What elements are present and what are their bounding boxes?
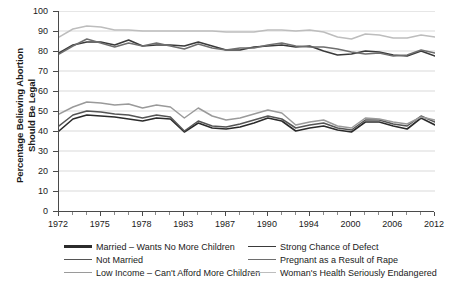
x-tick-mark	[239, 212, 240, 215]
x-tick-label: 1975	[80, 219, 120, 229]
x-tick-mark	[392, 212, 393, 216]
x-tick-mark	[364, 212, 365, 215]
legend-label: Married – Wants No More Children	[96, 242, 235, 252]
x-tick-mark	[309, 212, 310, 216]
legend-line-swatch	[248, 272, 276, 273]
x-tick-label: 2006	[372, 219, 412, 229]
y-tick-label: 60	[22, 87, 48, 96]
series-line-4	[59, 39, 435, 56]
y-tick-label: 30	[22, 147, 48, 156]
y-tick-label: 100	[22, 7, 48, 16]
x-tick-mark	[253, 212, 254, 215]
legend-line-swatch	[64, 259, 92, 261]
series-lines	[59, 11, 435, 211]
y-tick-label: 20	[22, 167, 48, 176]
x-tick-mark	[155, 212, 156, 215]
x-tick-mark	[211, 212, 212, 215]
legend-label: Pregnant as a Result of Rape	[280, 255, 398, 265]
y-tick-label: 80	[22, 47, 48, 56]
legend-item[interactable]: Married – Wants No More Children	[64, 240, 260, 253]
series-line-1	[59, 111, 435, 131]
legend-line-swatch	[248, 246, 276, 248]
legend-line-swatch	[64, 245, 92, 247]
x-tick-mark	[197, 212, 198, 215]
x-tick-mark	[58, 212, 59, 216]
y-tick-label: 50	[22, 107, 48, 116]
y-axis-ticks: 0102030405060708090100	[0, 0, 58, 211]
x-axis-tick-labels: 1972197519781983198719901994200020062012	[0, 219, 440, 233]
x-tick-label: 1994	[289, 219, 329, 229]
y-tick-label: 70	[22, 67, 48, 76]
legend-label: Strong Chance of Defect	[280, 242, 379, 252]
x-tick-label: 2000	[330, 219, 370, 229]
plot-area	[58, 11, 435, 211]
x-tick-mark	[128, 212, 129, 215]
x-tick-mark	[86, 212, 87, 215]
legend-line-swatch	[64, 272, 92, 273]
x-tick-label: 1983	[163, 219, 203, 229]
x-tick-mark	[406, 212, 407, 215]
y-tick-label: 0	[22, 207, 48, 216]
legend-label: Woman's Health Seriously Endangered	[280, 268, 437, 278]
x-tick-mark	[323, 212, 324, 215]
legend-item[interactable]: Pregnant as a Result of Rape	[248, 253, 437, 266]
x-tick-mark	[267, 212, 268, 216]
series-line-2	[59, 102, 435, 128]
x-tick-label: 1990	[247, 219, 287, 229]
x-tick-mark	[434, 212, 435, 216]
x-tick-mark	[281, 212, 282, 215]
x-tick-mark	[72, 212, 73, 215]
x-tick-mark	[183, 212, 184, 216]
y-tick-label: 90	[22, 27, 48, 36]
y-tick-label: 40	[22, 127, 48, 136]
x-tick-label: 1978	[122, 219, 162, 229]
x-tick-mark	[169, 212, 170, 215]
x-tick-mark	[378, 212, 379, 215]
y-tick-label: 10	[22, 187, 48, 196]
legend-item[interactable]: Strong Chance of Defect	[248, 240, 437, 253]
legend-column-right: Strong Chance of DefectPregnant as a Res…	[248, 240, 437, 279]
x-tick-mark	[350, 212, 351, 216]
series-line-0	[59, 115, 435, 132]
legend-item[interactable]: Not Married	[64, 253, 260, 266]
legend-label: Low Income – Can't Afford More Children	[96, 268, 260, 278]
x-tick-label: 1972	[38, 219, 78, 229]
x-tick-mark	[337, 212, 338, 215]
legend-item[interactable]: Woman's Health Seriously Endangered	[248, 266, 437, 279]
series-line-5	[59, 26, 435, 39]
legend-line-swatch	[248, 259, 276, 261]
legend-label: Not Married	[96, 255, 143, 265]
x-tick-label: 2012	[414, 219, 449, 229]
chart-legend: Married – Wants No More ChildrenNot Marr…	[0, 240, 440, 286]
x-tick-mark	[295, 212, 296, 215]
legend-column-left: Married – Wants No More ChildrenNot Marr…	[64, 240, 260, 279]
legend-item[interactable]: Low Income – Can't Afford More Children	[64, 266, 260, 279]
x-tick-mark	[142, 212, 143, 216]
x-tick-label: 1987	[205, 219, 245, 229]
x-axis-tickmarks	[58, 212, 434, 217]
x-tick-mark	[420, 212, 421, 215]
x-tick-mark	[100, 212, 101, 216]
x-tick-mark	[114, 212, 115, 215]
x-tick-mark	[225, 212, 226, 216]
